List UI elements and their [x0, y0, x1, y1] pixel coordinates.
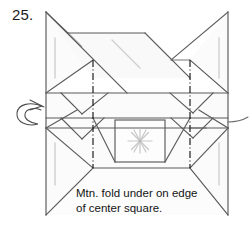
paper-fills — [46, 12, 228, 215]
asterisk-starburst-icon — [128, 129, 152, 153]
step-number-label: 25. — [12, 7, 33, 22]
instruction-caption: Mtn. fold under on edge of center square… — [76, 186, 246, 216]
right-tail-flick — [228, 117, 248, 122]
origami-diagram-page: 25. Mtn. fold under on edge of center sq… — [0, 0, 252, 231]
upper-right-wing-fill — [190, 12, 228, 93]
turn-over-arrow-icon — [17, 100, 44, 125]
